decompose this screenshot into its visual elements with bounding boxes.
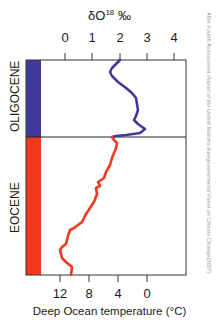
period-label-oligocene: OLIGOCENE	[8, 61, 22, 132]
plot-area	[0, 0, 219, 329]
bottom-tick-0: 0	[143, 286, 150, 301]
bottom-axis-ticks	[60, 275, 147, 282]
oligocene-bar	[26, 60, 41, 137]
bottom-tick-4: 4	[114, 286, 121, 301]
bottom-tick-8: 8	[85, 286, 92, 301]
plot-frame	[26, 60, 186, 275]
bottom-tick-12: 12	[53, 286, 67, 301]
oligocene-curve	[110, 60, 145, 137]
eocene-bar	[26, 137, 41, 275]
eocene-curve	[60, 137, 117, 275]
source-credit: After Fourth Assessment Report of the Un…	[206, 12, 212, 274]
period-label-eocene: EOCENE	[8, 182, 22, 233]
x-axis-label: Deep Ocean temperature (°C)	[0, 305, 219, 317]
